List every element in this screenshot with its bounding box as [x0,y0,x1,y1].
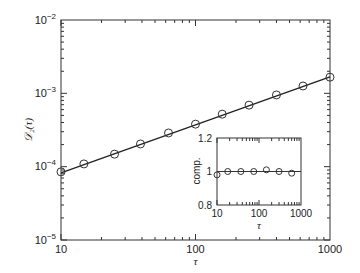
main-x-axis-label: τ [194,255,199,267]
main-y-axis-label: 𝒟₂(τ) [22,118,35,142]
ytick-label-1e-5: 10−5 [35,232,57,246]
xtick-label-1000: 1000 [318,243,342,255]
inset-ytick-label-0.8: 0.8 [198,200,212,211]
inset-x-axis-label: τ [257,219,262,231]
inset-y-axis-label: comp. [191,157,202,184]
ytick-label-1e-4: 10−4 [35,158,57,172]
main-ticks [61,20,330,240]
xtick-label-10: 10 [55,243,67,255]
xtick-label-100: 100 [186,243,204,255]
main-plot-frame [61,20,330,240]
inset-xtick-label-1000: 1000 [290,208,313,219]
inset-xtick-label-10: 10 [211,208,223,219]
ytick-label-1e-3: 10−3 [35,85,57,99]
chart-canvas: 10−2 10−3 10−4 10−5 10 100 1000 τ 𝒟₂(τ) … [0,0,360,273]
inset-ytick-label-1: 1 [206,166,212,177]
inset-xtick-label-100: 100 [251,208,268,219]
ytick-label-1e-2: 10−2 [35,12,57,26]
inset-ytick-label-1.2: 1.2 [198,133,212,144]
